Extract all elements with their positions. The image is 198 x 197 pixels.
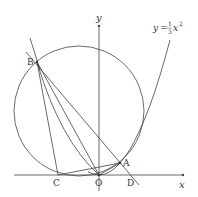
y-axis-arrow	[98, 25, 100, 27]
point-o-dot	[98, 174, 100, 176]
origin-label: O	[95, 178, 102, 188]
svg-text:3: 3	[168, 28, 172, 35]
x-axis-arrow	[182, 174, 184, 176]
point-a-dot	[119, 162, 121, 164]
segment-bc	[37, 62, 58, 175]
point-b-dot	[36, 61, 38, 63]
point-a-label: A	[122, 158, 130, 168]
curve-equation-label: y = 1 3 x 2	[152, 20, 183, 35]
geometry-figure: y x O B A C D y = 1 3 x 2	[0, 0, 198, 197]
svg-text:x: x	[173, 23, 178, 33]
point-d-label: D	[127, 178, 134, 188]
x-axis-label: x	[179, 179, 185, 190]
svg-text:=: =	[160, 23, 168, 33]
svg-text:1: 1	[168, 20, 172, 27]
svg-text:y: y	[152, 23, 159, 33]
point-c-label: C	[53, 178, 60, 188]
y-axis-label: y	[95, 12, 102, 23]
parabola-curve	[88, 40, 170, 175]
point-b-label: B	[27, 57, 34, 67]
segment-bo	[37, 62, 99, 175]
svg-text:2: 2	[179, 20, 183, 27]
